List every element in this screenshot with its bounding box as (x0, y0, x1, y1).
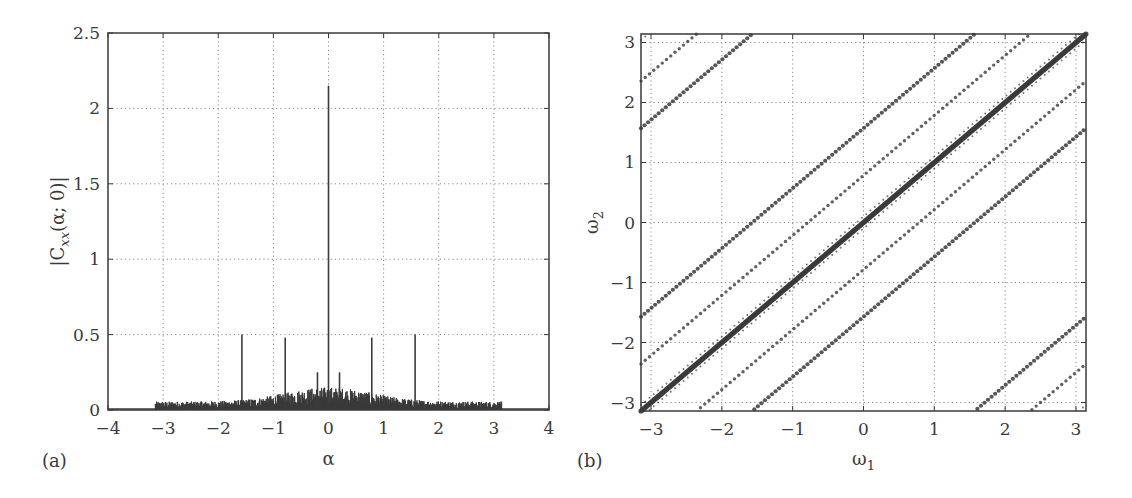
y-tick-label: 1.5 (73, 174, 100, 194)
y-tick-label: 2.5 (73, 23, 100, 43)
x-tick-label: 3 (488, 418, 499, 438)
x-tick-label: −1 (780, 419, 805, 439)
y-tick-label: 3 (624, 32, 635, 52)
y-axis-label: |Cxx(α; 0)| (47, 176, 72, 266)
y-tick-label: 1 (624, 152, 635, 172)
x-tick-label: −3 (151, 418, 176, 438)
panel-a-label: (a) (42, 450, 67, 471)
x-tick-label: −3 (638, 419, 663, 439)
x-tick-label: 0 (858, 419, 869, 439)
y-tick-label: 2 (89, 98, 100, 118)
x-tick-label: 2 (433, 418, 444, 438)
x-axis-label: ω1 (852, 448, 875, 473)
x-tick-label: −2 (709, 419, 734, 439)
panel-b-plot: −3−2−10123−3−2−10123ω1ω2(b) (577, 31, 1089, 473)
x-tick-label: 1 (929, 419, 940, 439)
x-tick-label: 2 (1000, 419, 1011, 439)
x-tick-label: 3 (1071, 419, 1082, 439)
y-tick-label: 0 (89, 400, 100, 420)
panel-a-plot: −4−3−2−10123400.511.522.5α|Cxx(α; 0)|(a) (42, 23, 554, 471)
y-axis-label: ω2 (581, 211, 606, 234)
x-tick-label: −1 (261, 418, 286, 438)
panel-b-label: (b) (577, 450, 603, 471)
y-tick-label: 0 (624, 213, 635, 233)
y-tick-label: 1 (89, 249, 100, 269)
x-axis-label: α (322, 448, 334, 469)
x-tick-label: −4 (95, 418, 120, 438)
y-tick-label: −2 (610, 333, 635, 353)
x-tick-label: −2 (206, 418, 231, 438)
y-tick-label: −1 (610, 273, 635, 293)
y-tick-label: 0.5 (73, 325, 100, 345)
x-tick-label: 0 (323, 418, 334, 438)
y-tick-label: −3 (610, 393, 635, 413)
y-tick-label: 2 (624, 92, 635, 112)
x-tick-label: 4 (544, 418, 555, 438)
x-tick-label: 1 (378, 418, 389, 438)
figure: −4−3−2−10123400.511.522.5α|Cxx(α; 0)|(a)… (0, 0, 1132, 498)
